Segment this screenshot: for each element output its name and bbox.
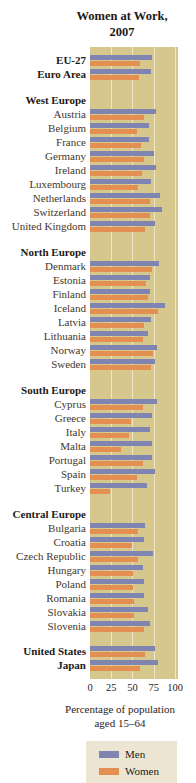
women-bar — [90, 613, 134, 618]
row-label: Denmark — [0, 261, 90, 272]
row-label: Iceland — [0, 303, 90, 314]
bar-pair — [90, 482, 178, 496]
bar-pair — [90, 578, 178, 592]
bar-pair — [90, 68, 178, 82]
bar-pair — [90, 606, 178, 620]
women-bar — [90, 199, 150, 204]
country-row: Finland — [0, 288, 196, 302]
country-row: EU-27 — [0, 54, 196, 68]
men-bar — [90, 565, 143, 570]
country-row: Germany — [0, 150, 196, 164]
women-bar — [90, 365, 151, 370]
plot-area — [90, 260, 178, 274]
row-label: Euro Area — [0, 69, 90, 80]
country-row: Czech Republic — [0, 550, 196, 564]
group-header-row: North Europe — [0, 245, 196, 260]
country-row: Romania — [0, 592, 196, 606]
women-bar — [90, 129, 137, 134]
women-bar — [90, 309, 158, 314]
plot-area — [90, 288, 178, 302]
row-label: Slovakia — [0, 607, 90, 618]
bar-pair — [90, 468, 178, 482]
country-row: Austria — [0, 108, 196, 122]
men-bar — [90, 221, 155, 226]
plot-area — [90, 82, 178, 93]
men-bar — [90, 523, 145, 528]
plot-area — [90, 536, 178, 550]
row-label: Hungary — [0, 565, 90, 576]
row-label: Ireland — [0, 165, 90, 176]
x-axis-label-line1: Percentage of population — [65, 703, 175, 715]
men-bar — [90, 261, 159, 266]
bar-pair — [90, 344, 178, 358]
row-label: Switzerland — [0, 207, 90, 218]
row-label: Luxembourg — [0, 179, 90, 190]
country-row: Belgium — [0, 122, 196, 136]
group-header-row: Central Europe — [0, 507, 196, 522]
plot-area — [90, 344, 178, 358]
group-header-row: South Europe — [0, 383, 196, 398]
row-label: Japan — [0, 660, 90, 671]
men-bar — [90, 137, 149, 142]
row-label: EU-27 — [0, 55, 90, 66]
plot-area — [90, 122, 178, 136]
x-tick-label: 50 — [127, 682, 138, 693]
row-label: Netherlands — [0, 193, 90, 204]
country-row: Slovakia — [0, 606, 196, 620]
men-bar — [90, 179, 151, 184]
plot-area — [90, 522, 178, 536]
women-bar — [90, 75, 139, 80]
men-bar — [90, 593, 144, 598]
women-bar — [90, 447, 121, 452]
men-bar — [90, 551, 153, 556]
men-bar — [90, 151, 154, 156]
row-label: Portugal — [0, 455, 90, 466]
spacer-row — [0, 673, 196, 679]
x-axis: 0255075100 — [90, 682, 186, 697]
bar-chart: EU-27Euro AreaWest EuropeAustriaBelgiumF… — [0, 47, 196, 679]
women-bar — [90, 599, 134, 604]
country-row: Croatia — [0, 536, 196, 550]
bar-pair — [90, 440, 178, 454]
country-row: Luxembourg — [0, 178, 196, 192]
bar-pair — [90, 645, 178, 659]
bar-pair — [90, 454, 178, 468]
plot-area — [90, 496, 178, 507]
row-label: Bulgaria — [0, 523, 90, 534]
men-bar — [90, 660, 158, 665]
plot-area — [90, 192, 178, 206]
country-row: Lithuania — [0, 330, 196, 344]
plot-area — [90, 440, 178, 454]
row-label: United States — [0, 646, 90, 657]
spacer-row — [0, 47, 196, 54]
men-bar — [90, 55, 152, 60]
plot-area — [90, 564, 178, 578]
men-bar — [90, 427, 150, 432]
bar-pair — [90, 54, 178, 68]
women-bar — [90, 115, 144, 120]
women-swatch-icon — [99, 768, 119, 775]
plot-area — [90, 136, 178, 150]
women-bar — [90, 227, 145, 232]
country-row: Norway — [0, 344, 196, 358]
women-bar — [90, 461, 143, 466]
plot-area — [90, 398, 178, 412]
plot-area — [90, 606, 178, 620]
plot-area — [90, 634, 178, 645]
men-bar — [90, 303, 165, 308]
x-tick-label: 0 — [87, 682, 92, 693]
women-bar — [90, 267, 152, 272]
plot-area — [90, 164, 178, 178]
women-bar — [90, 571, 133, 576]
men-bar — [90, 331, 148, 336]
country-row: Italy — [0, 426, 196, 440]
men-bar — [90, 621, 150, 626]
country-row: Bulgaria — [0, 522, 196, 536]
bar-pair — [90, 150, 178, 164]
row-label: Romania — [0, 593, 90, 604]
women-bar — [90, 585, 133, 590]
men-bar — [90, 275, 150, 280]
row-label: Estonia — [0, 275, 90, 286]
plot-area — [90, 482, 178, 496]
row-label: Lithuania — [0, 331, 90, 342]
